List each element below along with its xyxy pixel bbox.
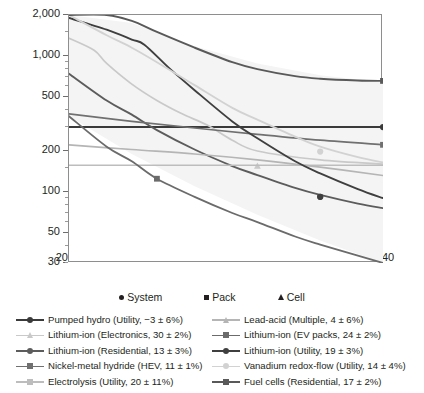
legend-swatch-fuel-cells-residential (212, 377, 240, 387)
legend-swatch-liion-electronics (16, 330, 44, 340)
legend-circle-marker-icon (27, 348, 33, 354)
legend-circle-marker-icon (27, 317, 33, 323)
legend-swatch-liion-residential (16, 346, 44, 356)
legend-label: Fuel cells (Residential, 17 ± 2%) (244, 377, 382, 387)
legend-item-pumped-hydro[interactable]: Pumped hydro (Utility, −3 ± 6%) (16, 312, 212, 328)
series-legend: Pumped hydro (Utility, −3 ± 6%)Lead-acid… (16, 312, 416, 390)
legend-swatch-lead-acid (212, 315, 240, 325)
y-tick-label: 2,000 (0, 8, 60, 19)
legend-label: Lithium-ion (EV packs, 24 ± 2%) (244, 330, 381, 340)
legend-swatch-electrolysis-utility (16, 377, 44, 387)
legend-item-lead-acid[interactable]: Lead-acid (Multiple, 4 ± 6%) (212, 312, 416, 328)
legend-item-electrolysis-utility[interactable]: Electrolysis (Utility, 20 ± 11%) (16, 374, 212, 390)
legend-label: Pumped hydro (Utility, −3 ± 6%) (48, 315, 183, 325)
legend-label: Lithium-ion (Electronics, 30 ± 2%) (48, 330, 191, 340)
legend-item-liion-ev-packs[interactable]: Lithium-ion (EV packs, 24 ± 2%) (212, 328, 416, 344)
legend-label: Lithium-ion (Residential, 13 ± 3%) (48, 346, 192, 356)
legend-item-vanadium-redox-flow[interactable]: Vanadium redox-flow (Utility, 14 ± 4%) (212, 359, 416, 375)
plot-frame (68, 14, 382, 262)
y-tick-label: 500 (0, 90, 60, 101)
legend-swatch-vanadium-redox-flow (212, 361, 240, 371)
legend-item-nimh-hev[interactable]: Nickel-metal hydride (HEV, 11 ± 1%) (16, 359, 212, 375)
legend-square-marker-icon (27, 363, 33, 369)
legend-label: Electrolysis (Utility, 20 ± 11%) (48, 377, 173, 387)
legend-circle-marker-icon (223, 348, 229, 354)
data-marker-liion-utility (317, 194, 323, 200)
product-price-chart: Product Price (USD/kWhcap) 2,0001,000500… (0, 0, 424, 285)
marker-legend-item-cell: Cell (278, 291, 305, 303)
marker-type-legend: SystemPackCell (0, 288, 424, 306)
legend-label: Lithium-ion (Utility, 19 ± 3%) (244, 346, 363, 356)
y-tick-label: 1,000 (0, 49, 60, 60)
legend-label: Lead-acid (Multiple, 4 ± 6%) (244, 315, 363, 325)
chart-page: Product Price (USD/kWhcap) 2,0001,000500… (0, 0, 424, 393)
legend-triangle-marker-icon (223, 317, 229, 323)
y-tick-label: 200 (0, 144, 60, 155)
data-marker-fuel-cells-residential (380, 78, 383, 84)
legend-square-marker-icon (223, 332, 229, 338)
system-marker-icon (119, 295, 124, 300)
y-tick-label: 100 (0, 185, 60, 196)
legend-item-liion-residential[interactable]: Lithium-ion (Residential, 13 ± 3%) (16, 343, 212, 359)
legend-triangle-marker-icon (27, 332, 33, 338)
legend-swatch-liion-ev-packs (212, 330, 240, 340)
legend-swatch-liion-utility (212, 346, 240, 356)
legend-item-liion-electronics[interactable]: Lithium-ion (Electronics, 30 ± 2%) (16, 328, 212, 344)
legend-square-marker-icon (27, 379, 33, 385)
pack-marker-icon (204, 295, 209, 300)
data-marker-nimh-hev (380, 142, 383, 148)
marker-legend-item-system: System (119, 291, 162, 303)
legend-item-liion-utility[interactable]: Lithium-ion (Utility, 19 ± 3%) (212, 343, 416, 359)
legend-swatch-nimh-hev (16, 361, 44, 371)
legend-label: Vanadium redox-flow (Utility, 14 ± 4%) (244, 361, 406, 371)
cell-marker-icon (278, 294, 284, 300)
uncertainty-band (69, 15, 383, 263)
series-canvas (69, 15, 383, 263)
marker-legend-label: System (127, 291, 162, 303)
marker-legend-item-pack: Pack (204, 291, 235, 303)
legend-circle-marker-icon (223, 363, 229, 369)
legend-label: Nickel-metal hydride (HEV, 11 ± 1%) (48, 361, 203, 371)
marker-legend-label: Cell (287, 291, 305, 303)
y-tick-label: 50 (0, 226, 60, 237)
legend-item-fuel-cells-residential[interactable]: Fuel cells (Residential, 17 ± 2%) (212, 374, 416, 390)
marker-legend-label: Pack (212, 291, 235, 303)
data-marker-liion-ev-packs (154, 176, 160, 182)
legend-square-marker-icon (223, 379, 229, 385)
data-marker-vanadium-redox-flow (317, 148, 323, 154)
legend-swatch-pumped-hydro (16, 315, 44, 325)
